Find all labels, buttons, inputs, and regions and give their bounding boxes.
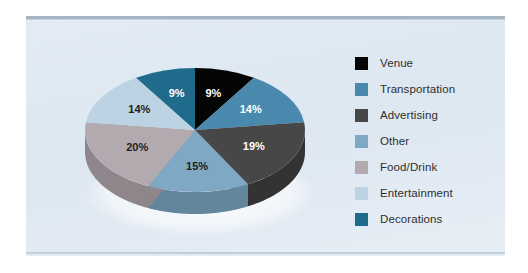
pie-slice-label: 15% — [186, 160, 208, 172]
legend-swatch-transportation — [355, 83, 368, 96]
legend-item-other[interactable]: Other — [355, 128, 495, 154]
legend-item-venue[interactable]: Venue — [355, 50, 495, 76]
legend-item-advertising[interactable]: Advertising — [355, 102, 495, 128]
legend-swatch-decorations — [355, 213, 368, 226]
legend-swatch-food-drink — [355, 161, 368, 174]
pie-slices — [85, 68, 305, 192]
legend-label-decorations: Decorations — [380, 213, 442, 225]
pie-slice-label: 19% — [243, 140, 265, 152]
legend-label-transportation: Transportation — [380, 83, 455, 95]
legend-label-venue: Venue — [380, 57, 413, 69]
pie-slice-label: 14% — [240, 103, 262, 115]
legend-swatch-advertising — [355, 109, 368, 122]
legend-swatch-entertainment — [355, 187, 368, 200]
legend-label-other: Other — [380, 135, 409, 147]
legend-swatch-other — [355, 135, 368, 148]
chart-legend: Venue Transportation Advertising Other F… — [355, 50, 495, 232]
legend-label-food-drink: Food/Drink — [380, 161, 437, 173]
legend-item-entertainment[interactable]: Entertainment — [355, 180, 495, 206]
chart-area: 9%14%19%15%20%14%9% Venue Transportation… — [26, 16, 505, 256]
pie-slice-label: 9% — [205, 87, 221, 99]
legend-swatch-venue — [355, 57, 368, 70]
legend-item-decorations[interactable]: Decorations — [355, 206, 495, 232]
pie-slice-label: 9% — [169, 87, 185, 99]
legend-item-food-drink[interactable]: Food/Drink — [355, 154, 495, 180]
screenshot-root: 9%14%19%15%20%14%9% Venue Transportation… — [0, 0, 528, 273]
legend-item-transportation[interactable]: Transportation — [355, 76, 495, 102]
legend-label-advertising: Advertising — [380, 109, 438, 121]
pie-slice-label: 20% — [126, 141, 148, 153]
legend-label-entertainment: Entertainment — [380, 187, 453, 199]
pie-slice-label: 14% — [128, 103, 150, 115]
